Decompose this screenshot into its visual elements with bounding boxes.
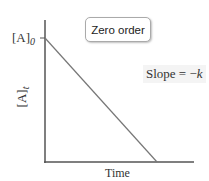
chart-title: Zero order [91, 24, 145, 36]
y-intercept-label: [A]0 [12, 31, 35, 49]
y-axis-label: [A]t [15, 87, 33, 108]
x-axis-label: Time [105, 166, 130, 180]
chart-title-box: Zero order [85, 17, 151, 42]
slope-annotation: Slope = −k [143, 65, 206, 83]
concentration-line [45, 38, 157, 162]
